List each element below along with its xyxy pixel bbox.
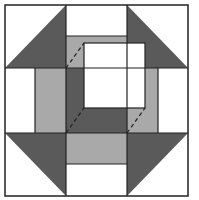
strip-left [35, 68, 66, 133]
quilt-block-diagram [0, 0, 199, 200]
strip-bottom [66, 133, 127, 164]
inset-square [84, 43, 145, 108]
